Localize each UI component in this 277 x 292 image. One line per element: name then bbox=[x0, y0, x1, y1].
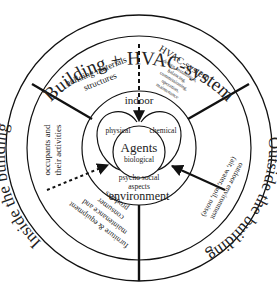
svg-text:occupants and: occupants and bbox=[42, 124, 52, 176]
label-physical: physical bbox=[106, 126, 131, 135]
outdoor-text: outdoor environment (air, water, soil, n… bbox=[199, 155, 247, 223]
label-chemical: chemical bbox=[149, 126, 176, 135]
occupants-text: occupants and their activities bbox=[42, 124, 63, 176]
label-psycho-social: psycho social bbox=[119, 173, 160, 182]
label-inside-building: Inside the building bbox=[0, 121, 44, 253]
label-agents: Agents bbox=[121, 140, 158, 155]
label-environment: environment bbox=[109, 189, 170, 203]
label-biological: biological bbox=[124, 155, 154, 164]
indoor-environment-diagram: Building + HVAC-system Inside the buildi… bbox=[0, 0, 277, 292]
svg-text:their activities: their activities bbox=[53, 124, 63, 176]
label-indoor: indoor bbox=[125, 94, 154, 106]
